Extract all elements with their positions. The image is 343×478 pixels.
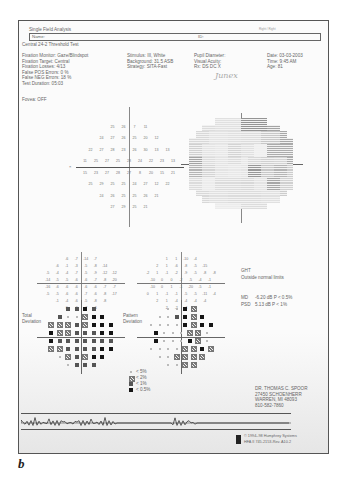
probability-symbol-icon [92, 355, 96, 359]
probability-symbol-icon [92, 339, 96, 343]
threshold-value: 20 [144, 136, 148, 140]
threshold-value: 29 [100, 182, 104, 186]
threshold-value: 12 [155, 182, 159, 186]
psd-label: PSD [241, 302, 250, 308]
threshold-value: 25 [111, 125, 115, 129]
threshold-value: -2 [146, 271, 149, 275]
threshold-value: 27 [105, 171, 109, 175]
threshold-value: 2 [156, 299, 158, 303]
threshold-value: 1 [166, 264, 168, 268]
probability-symbol-icon [176, 348, 178, 350]
threshold-value: -9 [94, 271, 97, 275]
threshold-value: -4 [198, 278, 201, 282]
grayscale-plot [191, 121, 291, 211]
probability-symbol-icon [182, 354, 188, 360]
threshold-value: -7 [75, 257, 78, 261]
probability-symbol-icon [92, 315, 96, 319]
probability-symbol-icon [57, 346, 63, 352]
threshold-value: 0 [171, 278, 173, 282]
probability-symbol-icon [195, 338, 201, 344]
threshold-value: 27 [105, 159, 109, 163]
threshold-value: -6 [94, 292, 97, 296]
legend-label: < 0.5% [136, 387, 150, 393]
threshold-value: -7 [94, 278, 97, 282]
threshold-value: 22 [89, 148, 93, 152]
legend-label: < 1% [136, 381, 147, 387]
probability-symbol-icon [176, 364, 178, 366]
grayscale-cell [261, 203, 268, 210]
threshold-value: -4 [203, 299, 206, 303]
probability-symbol-icon [208, 346, 214, 352]
threshold-value: 26 [122, 136, 126, 140]
threshold-value: 26 [133, 148, 137, 152]
threshold-value: -4 [65, 271, 68, 275]
probability-symbol-icon [200, 315, 204, 319]
probability-symbol-icon [100, 339, 104, 343]
threshold-value: -6 [75, 278, 78, 282]
probability-symbol-icon [180, 332, 182, 334]
probability-symbol-icon [167, 348, 169, 350]
threshold-value: -7 [103, 285, 106, 289]
rx: Rx: DS DC X [194, 64, 225, 70]
pdp-horizontal-axis [137, 337, 225, 338]
probability-symbol-icon [57, 330, 63, 336]
probability-symbol-icon [150, 348, 152, 350]
threshold-value: -10 [183, 257, 188, 261]
probability-symbol-icon [48, 322, 54, 328]
threshold-value: 1 [171, 285, 173, 289]
threshold-value: -7 [113, 285, 116, 289]
probability-symbol-icon [67, 364, 69, 366]
threshold-value: 21 [171, 171, 175, 175]
probability-symbol-icon [191, 306, 197, 312]
threshold-value: 26 [144, 194, 148, 198]
doctor-phone: 810-582-7860 [255, 403, 308, 409]
params-left: Fixation Monitor: Gaze/Blindspot Fixatio… [22, 53, 88, 86]
threshold-value: 22 [149, 159, 153, 163]
md-label: MD [241, 295, 248, 301]
threshold-value: -8 [94, 264, 97, 268]
probability-symbol-icon [83, 363, 87, 367]
probability-symbol-icon [174, 354, 180, 360]
threshold-value: 27 [111, 205, 115, 209]
legend-dark-square-icon [129, 388, 133, 392]
probability-symbol-icon [206, 332, 208, 334]
footer-model: HFA II 745-2153-Rev. A10.2 [244, 440, 291, 446]
printout-page: Single Field Analysis Right / Right Name… [18, 20, 329, 454]
probability-symbol-icon [57, 322, 63, 328]
ght-value: Outside normal limits [241, 275, 284, 281]
threshold-value: 21 [144, 205, 148, 209]
threshold-value: 27 [144, 182, 148, 186]
threshold-value: -6 [84, 278, 87, 282]
threshold-value: -5 [189, 278, 192, 282]
threshold-value: 23 [94, 171, 98, 175]
probability-symbol-icon [67, 316, 69, 318]
footer-copyright: © 1994–98 Humphrey Systems [244, 434, 297, 440]
probability-symbol-icon [187, 330, 193, 336]
threshold-value: 1 [166, 299, 168, 303]
threshold-value: 25 [122, 194, 126, 198]
threshold-value: -5 [84, 271, 87, 275]
probability-symbol-icon [176, 324, 178, 326]
fovea-status: Fovea: OFF [22, 97, 47, 103]
threshold-value: -5 [46, 271, 49, 275]
threshold-value: -1 [165, 271, 168, 275]
probability-symbol-icon [66, 339, 70, 343]
threshold-value: 1 [166, 257, 168, 261]
threshold-value: 27 [111, 136, 115, 140]
threshold-value: 25 [133, 136, 137, 140]
probability-symbol-icon [159, 348, 161, 350]
gaze-track-top-line [21, 413, 291, 414]
probability-symbol-icon [75, 355, 79, 359]
threshold-value: -1 [179, 285, 182, 289]
probability-symbol-icon [200, 323, 204, 327]
threshold-value: 24 [138, 159, 142, 163]
threshold-value: -17 [112, 292, 117, 296]
probability-symbol-icon [109, 331, 113, 335]
threshold-value: 27 [100, 148, 104, 152]
probability-symbol-icon [75, 323, 79, 327]
threshold-value: 0 [161, 285, 163, 289]
probability-symbol-icon [183, 315, 187, 319]
probability-symbol-icon [100, 331, 104, 335]
threshold-value: -1 [56, 299, 59, 303]
threshold-value: -20 [112, 278, 117, 282]
